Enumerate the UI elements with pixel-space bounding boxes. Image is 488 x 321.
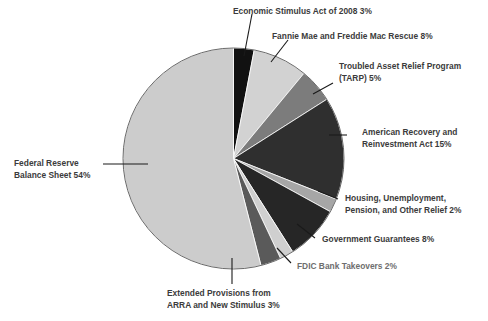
slice-label-gov-guarantees: Government Guarantees 8% [322, 234, 434, 246]
slice-label-fdic: FDIC Bank Takeovers 2% [297, 261, 397, 273]
slice-label-arra-line2: Reinvestment Act 15% [362, 139, 457, 151]
slice-label-tarp-line2: (TARP) 5% [339, 73, 461, 85]
slice-label-arra-line1: American Recovery and [362, 127, 457, 139]
slice-label-gov-guarantees-line1: Government Guarantees 8% [322, 234, 434, 246]
slice-label-extended-provisions-line1: Extended Provisions from [167, 288, 280, 300]
slice-label-fannie-freddie: Fannie Mae and Freddie Mac Rescue 8% [272, 31, 433, 43]
slice-label-tarp: Troubled Asset Relief Program (TARP) 5% [339, 61, 461, 84]
slice-label-federal-reserve: Federal Reserve Balance Sheet 54% [14, 158, 90, 181]
slice-label-economic-stimulus-line1: Economic Stimulus Act of 2008 3% [233, 6, 372, 18]
slice-label-federal-reserve-line2: Balance Sheet 54% [14, 170, 90, 182]
slice-label-fannie-freddie-line1: Fannie Mae and Freddie Mac Rescue 8% [272, 31, 433, 43]
slice-label-tarp-line1: Troubled Asset Relief Program [339, 61, 461, 73]
slice-label-federal-reserve-line1: Federal Reserve [14, 158, 90, 170]
slice-label-housing-line2: Pension, and Other Relief 2% [345, 205, 461, 217]
slice-label-arra: American Recovery and Reinvestment Act 1… [362, 127, 457, 150]
slice-label-fdic-line1: FDIC Bank Takeovers 2% [297, 261, 397, 273]
slice-label-housing-line1: Housing, Unemployment, [345, 193, 461, 205]
slice-label-extended-provisions: Extended Provisions from ARRA and New St… [167, 288, 280, 311]
chart-canvas: Economic Stimulus Act of 2008 3% Fannie … [0, 0, 488, 321]
pie-slices [123, 48, 344, 269]
slice-label-economic-stimulus: Economic Stimulus Act of 2008 3% [233, 6, 372, 18]
slice-label-extended-provisions-line2: ARRA and New Stimulus 3% [167, 300, 280, 312]
slice-label-housing: Housing, Unemployment, Pension, and Othe… [345, 193, 461, 216]
